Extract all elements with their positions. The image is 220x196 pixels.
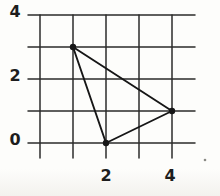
y-tick-label-2: 2 bbox=[9, 66, 20, 85]
vertex-dot-0 bbox=[70, 44, 76, 50]
stray-ink-speck bbox=[204, 159, 207, 162]
y-tick-label-4: 4 bbox=[9, 2, 20, 21]
triangle-shape bbox=[73, 47, 172, 143]
y-tick-label-0: 0 bbox=[9, 130, 20, 149]
vertex-dot-1 bbox=[103, 140, 109, 146]
vertex-dot-2 bbox=[169, 108, 175, 114]
x-tick-label-4: 4 bbox=[164, 166, 175, 185]
coordinate-grid-figure: 42024 bbox=[0, 0, 220, 196]
grid-plot-svg: 42024 bbox=[0, 0, 220, 196]
x-tick-label-2: 2 bbox=[100, 166, 111, 185]
